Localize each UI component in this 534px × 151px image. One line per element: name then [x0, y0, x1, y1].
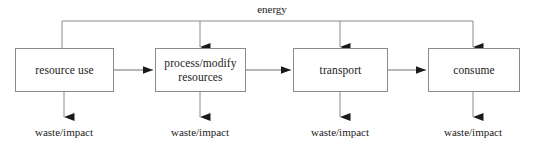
box-transport-label: transport: [317, 63, 365, 77]
box-process-modify-resources-label: process/modify resources: [161, 56, 239, 84]
box-consume-label: consume: [450, 63, 498, 77]
energy-label-text: energy: [257, 3, 287, 15]
waste-impact-label-consume: waste/impact: [423, 126, 523, 139]
energy-label: energy: [232, 3, 312, 16]
waste-impact-label-transport: waste/impact: [290, 126, 390, 139]
box-resource-use[interactable]: resource use: [15, 48, 114, 92]
box-resource-use-label: resource use: [32, 63, 96, 77]
waste-impact-text-4: waste/impact: [444, 126, 502, 138]
energy-flow-diagram: energy resource use process/modify resou…: [0, 0, 534, 151]
waste-impact-text-3: waste/impact: [311, 126, 369, 138]
waste-impact-text-1: waste/impact: [35, 126, 93, 138]
waste-impact-label-process-modify: waste/impact: [150, 126, 250, 139]
waste-impact-label-resource-use: waste/impact: [14, 126, 114, 139]
box-transport[interactable]: transport: [293, 48, 388, 92]
box-process-modify-resources[interactable]: process/modify resources: [155, 48, 246, 92]
waste-impact-text-2: waste/impact: [171, 126, 229, 138]
box-consume[interactable]: consume: [428, 48, 520, 92]
